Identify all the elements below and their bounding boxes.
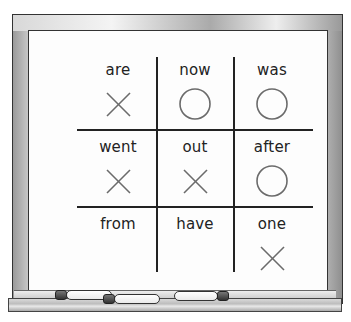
grid-cell-out[interactable]: out <box>157 132 233 208</box>
cell-word: now <box>157 61 233 79</box>
cell-word: after <box>234 138 310 156</box>
grid-cell-from[interactable]: from <box>80 209 156 285</box>
frame-top-shade <box>13 15 342 31</box>
x-mark-icon <box>255 241 289 275</box>
cell-word: out <box>157 138 233 156</box>
o-mark-icon <box>255 87 289 121</box>
grid-cell-are[interactable]: are <box>80 55 156 131</box>
marker-tray <box>8 298 342 312</box>
grid-cell-one[interactable]: one <box>234 209 310 285</box>
cell-word: one <box>234 215 310 233</box>
marker-2[interactable] <box>114 294 160 304</box>
grid-cell-after[interactable]: after <box>234 132 310 208</box>
x-mark-icon <box>178 164 212 198</box>
cell-word: from <box>80 215 156 233</box>
grid-cell-was[interactable]: was <box>234 55 310 131</box>
marker-cap-icon <box>217 291 229 301</box>
cell-word: are <box>80 61 156 79</box>
grid-cell-have[interactable]: have <box>157 209 233 285</box>
cell-word: went <box>80 138 156 156</box>
x-mark-icon <box>101 164 135 198</box>
o-mark-icon <box>178 87 212 121</box>
grid-cell-went[interactable]: went <box>80 132 156 208</box>
cell-word: was <box>234 61 310 79</box>
x-mark-icon <box>101 87 135 121</box>
grid-cell-now[interactable]: now <box>157 55 233 131</box>
o-mark-icon <box>255 164 289 198</box>
cell-word: have <box>157 215 233 233</box>
marker-3[interactable] <box>174 291 218 301</box>
